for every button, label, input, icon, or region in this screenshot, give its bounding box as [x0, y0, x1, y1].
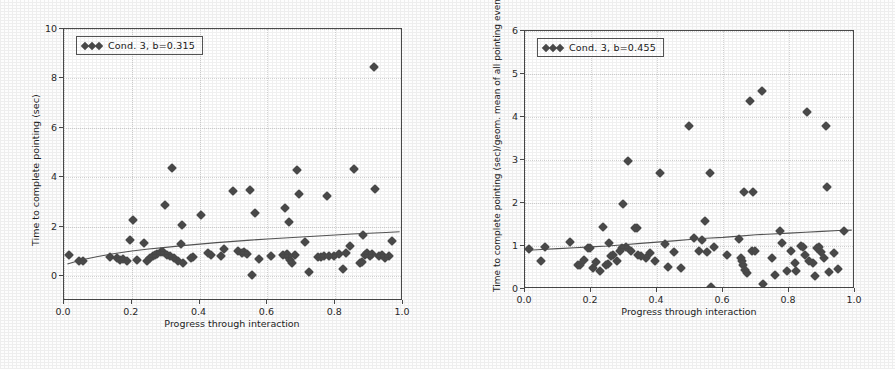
scatter-point: [706, 282, 716, 287]
x-tick-mark: [788, 288, 789, 292]
x-tick-mark: [334, 300, 335, 304]
scatter-point: [292, 165, 302, 175]
scatter-point: [663, 262, 673, 272]
scatter-point: [565, 237, 575, 247]
x-tick-mark: [131, 300, 132, 304]
x-tick-mark: [590, 288, 591, 292]
scatter-point: [125, 235, 135, 245]
y-tick-mark: [520, 30, 524, 31]
y-tick-label: 8: [37, 72, 57, 83]
y-tick-mark: [520, 73, 524, 74]
x-tick-label: 0.8: [327, 306, 342, 317]
x-tick-mark: [402, 300, 403, 304]
y-tick-mark: [520, 288, 524, 289]
scatter-point: [322, 191, 332, 201]
x-tick-label: 0.2: [123, 306, 138, 317]
scatter-point: [284, 217, 294, 227]
scatter-point: [370, 184, 380, 194]
scatter-point: [387, 236, 397, 246]
y-tick-mark: [59, 275, 63, 276]
scatter-point: [734, 234, 744, 244]
figure-two-panel-scatter: 0.00.20.40.60.81.00246810 Cond. 3, b=0.3…: [0, 0, 895, 369]
y-tick-mark: [59, 176, 63, 177]
scatter-point: [829, 248, 839, 258]
y-tick-label: 10: [37, 23, 57, 34]
scatter-points-right: [525, 31, 853, 287]
panel-left: 0.00.20.40.60.81.00246810 Cond. 3, b=0.3…: [0, 0, 447, 369]
scatter-point: [618, 199, 628, 209]
x-tick-mark: [524, 288, 525, 292]
x-axis-title-right: Progress through interaction: [621, 306, 756, 317]
scatter-point: [821, 121, 831, 131]
x-tick-mark: [63, 300, 64, 304]
scatter-point: [791, 266, 801, 276]
scatter-point: [758, 279, 768, 287]
scatter-point: [598, 222, 608, 232]
x-tick-label: 0.4: [648, 294, 663, 305]
scatter-point: [822, 182, 832, 192]
legend-label-right: Cond. 3, b=0.455: [569, 42, 656, 53]
y-axis-title-right: Time to complete pointing (sec)/geom. me…: [492, 0, 502, 292]
scatter-points-left: [64, 29, 401, 299]
scatter-point: [176, 239, 186, 249]
y-tick-mark: [520, 202, 524, 203]
scatter-point: [810, 271, 820, 281]
scatter-point: [748, 187, 758, 197]
scatter-point: [358, 230, 368, 240]
plot-frame-left: [63, 28, 402, 300]
x-tick-mark: [199, 300, 200, 304]
legend-marker-icon: [543, 45, 563, 51]
x-tick-mark: [854, 288, 855, 292]
y-axis-title-left: Time to complete pointing (sec): [30, 94, 41, 246]
y-tick-mark: [520, 116, 524, 117]
scatter-point: [536, 257, 546, 267]
scatter-point: [228, 186, 238, 196]
x-tick-mark: [722, 288, 723, 292]
scatter-point: [196, 210, 206, 220]
scatter-point: [722, 251, 732, 261]
legend-left: Cond. 3, b=0.315: [76, 36, 203, 55]
scatter-point: [525, 244, 534, 254]
scatter-point: [660, 239, 670, 249]
scatter-point: [300, 237, 310, 247]
plot-frame-right: [524, 30, 854, 288]
x-tick-mark: [656, 288, 657, 292]
scatter-point: [250, 208, 260, 218]
x-tick-label: 1.0: [846, 294, 861, 305]
scatter-point: [167, 163, 177, 173]
scatter-point: [304, 267, 314, 277]
y-tick-mark: [520, 245, 524, 246]
scatter-point: [757, 86, 767, 96]
y-tick-mark: [59, 127, 63, 128]
x-tick-label: 0.0: [55, 306, 70, 317]
legend-right: Cond. 3, b=0.455: [537, 38, 664, 57]
scatter-point: [177, 220, 187, 230]
scatter-point: [833, 264, 843, 274]
scatter-point: [839, 226, 849, 236]
scatter-point: [700, 216, 710, 226]
x-tick-mark: [266, 300, 267, 304]
scatter-point: [64, 250, 74, 260]
x-tick-label: 0.6: [714, 294, 729, 305]
x-tick-label: 0.6: [259, 306, 274, 317]
scatter-point: [684, 121, 694, 131]
scatter-point: [139, 238, 149, 248]
scatter-point: [294, 189, 304, 199]
scatter-point: [254, 254, 264, 264]
scatter-point: [604, 238, 614, 248]
scatter-point: [247, 270, 257, 280]
scatter-point: [541, 242, 551, 252]
scatter-point: [245, 185, 255, 195]
scatter-point: [129, 215, 139, 225]
scatter-point: [338, 264, 348, 274]
x-tick-label: 0.8: [780, 294, 795, 305]
scatter-point: [623, 156, 633, 166]
scatter-point: [770, 270, 780, 280]
x-axis-title-left: Progress through interaction: [164, 318, 299, 329]
x-tick-label: 0.0: [516, 294, 531, 305]
scatter-point: [676, 263, 686, 273]
x-tick-label: 0.2: [582, 294, 597, 305]
scatter-point: [650, 256, 660, 266]
scatter-point: [802, 107, 812, 117]
y-tick-mark: [520, 159, 524, 160]
